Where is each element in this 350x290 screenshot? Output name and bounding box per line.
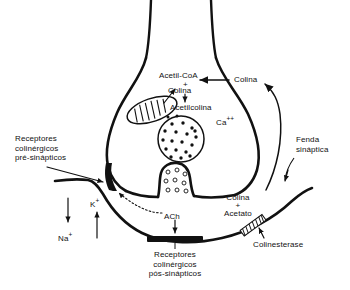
presynaptic-receptors-line1: Receptores (15, 134, 111, 144)
label-potassium-ion: K+ (90, 200, 99, 210)
synaptic-vesicle-icon (158, 115, 204, 163)
postsynaptic-receptor-icon (147, 236, 203, 242)
label-colina-uptake: Colina (234, 75, 257, 85)
synaptic-cleft-line2: sináptica (296, 145, 348, 155)
presynaptic-receptors-line2: colinérgicos (15, 144, 111, 154)
postsynaptic-receptors-line2: colinérgicos (126, 260, 224, 270)
choline-reuptake-arrow (265, 84, 281, 190)
fusing-vesicle-icon (164, 168, 188, 193)
postsynaptic-receptors-line3: pós-sinápticos (126, 269, 224, 279)
synaptic-cleft-line1: Fenda (296, 135, 348, 145)
label-presynaptic-receptors: Receptores colinérgicos pré-sinápticos (15, 134, 111, 163)
presynaptic-neuron-outline (107, 0, 259, 197)
label-acetato: Acetato (212, 209, 264, 219)
presynaptic-receptor-icon (105, 163, 117, 191)
cholinergic-synapse-diagram: Acetil-CoA + Colina Acetilcolina Colina … (0, 0, 350, 290)
postsynaptic-membrane (55, 179, 312, 242)
postsynaptic-receptors-line1: Receptores (126, 250, 224, 260)
label-ach: ACh (164, 212, 180, 222)
label-synaptic-cleft: Fenda sináptica (296, 135, 348, 154)
label-postsynaptic-receptors: Receptores colinérgicos pós-sinápticos (126, 250, 224, 279)
label-acetil-coa: Acetil-CoA (159, 71, 198, 81)
label-calcium: Ca++ (216, 118, 234, 128)
label-sodium-ion: Na+ (58, 234, 72, 244)
presynaptic-receptors-line3: pré-sinápticos (15, 153, 111, 163)
label-colinesterase: Colinesterase (253, 240, 303, 250)
label-colina-terminal: Colina (168, 86, 191, 96)
label-acetilcolina: Acetilcolina (170, 103, 212, 113)
